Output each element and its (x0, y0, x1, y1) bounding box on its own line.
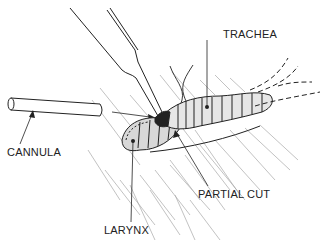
tracheal-cannulation-diagram (0, 0, 330, 251)
cannula-icon (8, 98, 102, 116)
cannula-label: CANNULA (7, 146, 61, 158)
cannula-arrow-line (112, 112, 150, 117)
trachea-shape (155, 93, 272, 129)
trachea-label: TRACHEA (223, 28, 277, 40)
scalpel-icon (70, 8, 162, 116)
cannula-leader-line (20, 114, 32, 144)
partial-cut-label: PARTIAL CUT (198, 188, 270, 200)
larynx-label: LARYNX (104, 224, 149, 236)
